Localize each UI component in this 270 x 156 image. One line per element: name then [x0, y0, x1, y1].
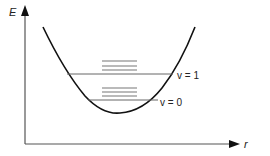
- level-v0-label: v = 0: [160, 97, 182, 108]
- level-v1-label: v = 1: [177, 70, 199, 81]
- x-axis-arrow-icon: [229, 140, 240, 148]
- potential-energy-diagram: E r v = 1 v = 0: [0, 0, 270, 156]
- x-axis-label: r: [244, 138, 249, 150]
- y-axis-label: E: [9, 6, 17, 18]
- y-axis-arrow-icon: [21, 5, 29, 16]
